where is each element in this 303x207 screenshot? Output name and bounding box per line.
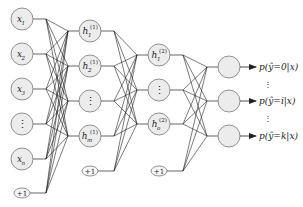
svg-text:(2): (2): [159, 117, 167, 123]
output-labels: p(ŷ=0|x)p(ŷ=i|x)p(ŷ=k|x)⋮⋮: [240, 62, 299, 142]
node-h1_2: h2(1): [79, 55, 101, 77]
svg-text:⋮: ⋮: [154, 84, 165, 97]
output-label-1: p(ŷ=i|x): [240, 96, 296, 107]
output-label-2: p(ŷ=k|x): [240, 131, 298, 142]
svg-text:+1: +1: [85, 168, 95, 176]
node-h2_o: ho(2): [148, 113, 170, 135]
svg-text:⋮: ⋮: [85, 95, 96, 108]
network-nodes: x1x2x3⋮xn+1h1(1)h2(1)⋮hm(1)+1h1(2)⋮ho(2)…: [11, 8, 240, 198]
node-xn: xn: [11, 148, 33, 170]
node-x3: x3: [11, 78, 33, 100]
neural-network-diagram: x1x2x3⋮xn+1h1(1)h2(1)⋮hm(1)+1h1(2)⋮ho(2)…: [0, 0, 303, 207]
svg-text:⋮: ⋮: [17, 118, 28, 131]
svg-text:(1): (1): [90, 24, 98, 30]
svg-text:+1: +1: [154, 168, 164, 176]
node-yi: [218, 90, 240, 112]
node-yk: [218, 125, 240, 147]
svg-text:p(ŷ=0|x): p(ŷ=0|x): [259, 62, 299, 73]
bias-node-hidden1: +1: [82, 166, 98, 176]
node-h2_dots: ⋮: [148, 79, 170, 101]
node-x2: x2: [11, 43, 33, 65]
bias-node-hidden2: +1: [151, 166, 167, 176]
node-h1_1: h1(1): [79, 20, 101, 42]
svg-text:p(ŷ=k|x): p(ŷ=k|x): [259, 131, 298, 142]
output-vdots-1: ⋮: [264, 114, 272, 123]
svg-text:(2): (2): [159, 48, 167, 54]
bias-node-input: +1: [14, 188, 30, 198]
output-label-0: p(ŷ=0|x): [240, 62, 299, 73]
svg-text:+1: +1: [17, 190, 27, 198]
node-h1_m: hm(1): [79, 125, 101, 147]
node-h2_1: h1(2): [148, 44, 170, 66]
output-vdots-0: ⋮: [264, 80, 272, 89]
svg-text:p(ŷ=i|x): p(ŷ=i|x): [259, 96, 296, 107]
node-x1: x1: [11, 8, 33, 30]
svg-text:(1): (1): [90, 129, 98, 135]
svg-text:(1): (1): [90, 59, 98, 65]
node-h1_dots: ⋮: [79, 90, 101, 112]
node-xdots: ⋮: [11, 113, 33, 135]
connection-edges: [30, 19, 218, 193]
node-y0: [218, 56, 240, 78]
